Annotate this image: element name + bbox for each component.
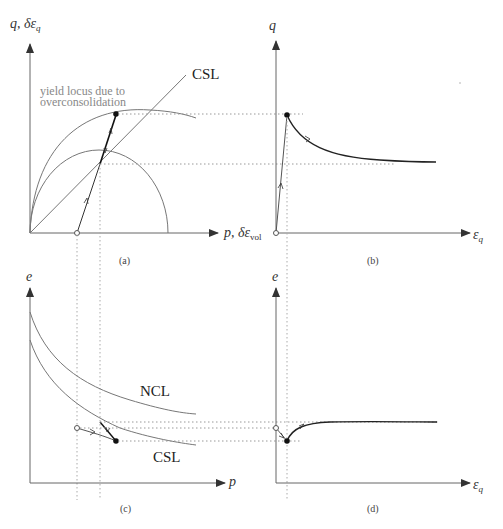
b-x-axis-label: εq [473,228,483,244]
a-start-point [75,231,80,236]
stray-dot [459,82,460,83]
a-caption: (a) [119,256,130,266]
c-y-axis-label: e [26,270,32,284]
a-y-axis-label: q, δεq [10,17,41,33]
c-start-point [75,426,80,431]
d-caption: (d) [367,504,379,514]
b-caption: (b) [367,256,379,266]
a-x-axis-label: p, δεvol [224,226,262,242]
c-caption: (c) [120,504,131,514]
b-elastic-path [276,115,287,233]
c-peak-point [113,438,119,444]
panel-b [274,41,471,500]
a-stress-path-2 [100,115,116,164]
a-yield-locus-label: yield locus due to overconsolidation [40,86,126,108]
critical-state-figure [0,0,503,529]
d-start-point [274,426,279,431]
c-ncl-label: NCL [140,384,170,399]
b-y-axis-label: q [269,19,276,33]
panel-d [274,288,471,483]
c-ncl-curve [30,312,196,414]
panel-a [30,44,395,500]
b-peak-point [284,112,290,118]
c-x-axis-label: p [229,475,236,489]
c-csl-curve [30,340,196,445]
b-start-point [274,231,279,236]
panel-c [30,288,440,483]
a-csl-label: CSL [192,67,220,82]
d-y-axis-label: e [272,270,278,284]
a-large-yield-locus [30,110,196,233]
c-csl-label: CSL [153,450,181,465]
d-dilation-curve [287,422,437,441]
a-peak-point [113,111,119,117]
d-peak-point [284,438,290,444]
d-path-arrow-1 [279,433,284,438]
d-x-axis-label: εq [473,478,483,494]
